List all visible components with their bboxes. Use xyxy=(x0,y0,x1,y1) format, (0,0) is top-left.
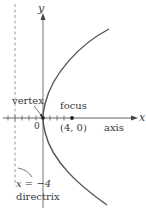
x-axis-label: x xyxy=(139,111,146,124)
focus-coords-label: (4, 0) xyxy=(60,122,87,133)
axis-label: axis xyxy=(104,122,124,133)
x-axis-arrow-icon xyxy=(131,116,138,121)
y-axis-label: y xyxy=(37,2,45,15)
vertex-point xyxy=(41,116,45,120)
vertex-label: vertex xyxy=(11,95,44,106)
parabola-diagram: y x 0 vertex focus (4, 0) axis x = −4 di… xyxy=(0,0,146,208)
directrix-label: directrix xyxy=(16,191,60,202)
origin-label: 0 xyxy=(34,121,40,131)
directrix-leader-line xyxy=(18,168,32,177)
directrix-equation-label: x = −4 xyxy=(16,178,51,189)
focus-label: focus xyxy=(60,100,87,111)
focus-point xyxy=(70,116,74,120)
parabola-curve xyxy=(43,29,109,205)
